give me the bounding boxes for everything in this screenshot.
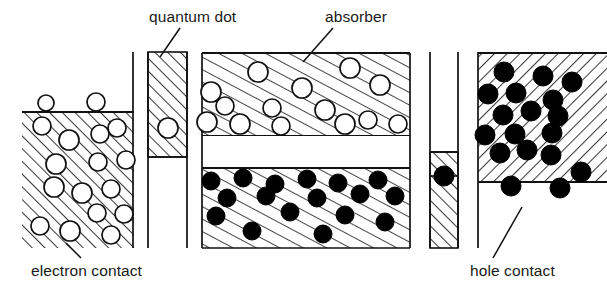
hole-holes-in-absorber-11 [207, 207, 225, 225]
electron-electrons-in-contact-2 [91, 125, 109, 143]
hole-holes-in-contact-11 [542, 123, 562, 143]
electron-electrons-in-contact-8 [72, 183, 92, 203]
hole-holes-in-contact-7 [521, 101, 541, 121]
hole-holes-in-absorber-10 [386, 187, 404, 205]
hole-holes-in-absorber-9 [351, 185, 369, 203]
electron-electrons-in-contact-4 [46, 154, 66, 174]
electron-electrons-in-contact-3 [108, 119, 126, 137]
absorber-bandgap [202, 136, 410, 168]
electron-electrons-in-contact-12 [31, 217, 49, 235]
electron-electrons-in-absorber-8 [197, 112, 217, 132]
electron-electrons-in-contact-13 [60, 221, 80, 241]
label-electron-contact: electron contact [31, 262, 142, 280]
hole-holes-in-absorber-4 [329, 174, 347, 192]
hole-holes-in-contact-6 [493, 105, 513, 125]
electron-electrons-free-above-contact-1 [87, 93, 105, 111]
hole-holes-in-absorber-14 [376, 213, 394, 231]
electron-electrons-in-contact-5 [89, 153, 107, 171]
hole-holes-in-contact-9 [475, 125, 495, 145]
hole-hole-in-quantum-dot-right-0 [434, 166, 454, 186]
hole-holes-in-absorber-13 [336, 206, 354, 224]
hole-contact-leader [493, 207, 522, 258]
electron-electrons-in-contact-1 [59, 130, 79, 150]
band-diagram-canvas [0, 0, 607, 293]
hole-holes-in-absorber-3 [298, 170, 316, 188]
hole-holes-in-contact-3 [478, 84, 498, 104]
electron-electrons-in-absorber-12 [359, 111, 377, 129]
hole-holes-in-absorber-1 [234, 169, 252, 187]
hole-holes-in-contact-12 [490, 143, 510, 163]
hole-holes-in-absorber-12 [281, 203, 299, 221]
hole-holes-in-contact-17 [550, 178, 570, 198]
electron-electrons-in-absorber-0 [248, 62, 268, 82]
hole-holes-in-absorber-6 [218, 189, 236, 207]
electron-electrons-in-absorber-9 [230, 114, 250, 134]
electron-electrons-in-absorber-11 [335, 114, 355, 134]
label-quantum-dot: quantum dot [149, 8, 236, 26]
electron-electrons-free-above-contact-0 [38, 95, 54, 111]
electron-electrons-in-contact-0 [33, 117, 51, 135]
hole-holes-in-absorber-8 [308, 189, 326, 207]
quantum-dot-left-body [148, 52, 187, 157]
hole-holes-in-contact-13 [517, 140, 537, 160]
electron-electrons-in-contact-11 [115, 205, 133, 223]
electron-electrons-in-contact-7 [44, 177, 64, 197]
electron-electron-in-quantum-dot-left-0 [158, 118, 178, 138]
label-hole-contact: hole contact [470, 262, 555, 280]
hole-holes-in-absorber-0 [202, 172, 220, 190]
hole-holes-in-absorber-7 [257, 187, 275, 205]
band-diagram-figure: quantum dot absorber electron contact ho… [0, 0, 607, 293]
hole-holes-in-contact-15 [571, 162, 591, 182]
hole-holes-in-contact-1 [533, 66, 553, 86]
electron-electrons-in-absorber-5 [216, 97, 234, 115]
hole-holes-in-absorber-5 [369, 171, 387, 189]
hole-holes-in-contact-14 [541, 145, 561, 165]
electron-electrons-in-absorber-7 [315, 100, 335, 120]
electron-electrons-in-absorber-1 [340, 58, 360, 78]
region-quantum-dot-left [148, 52, 187, 157]
electron-electrons-in-contact-9 [102, 180, 120, 198]
hole-holes-in-contact-2 [562, 72, 582, 92]
hole-holes-in-contact-16 [501, 176, 521, 196]
electron-electrons-in-absorber-4 [370, 75, 390, 95]
electron-electrons-in-absorber-13 [389, 115, 407, 133]
electron-electrons-in-absorber-10 [272, 117, 290, 135]
hole-holes-in-absorber-15 [243, 222, 261, 240]
electron-electrons-in-absorber-3 [292, 78, 312, 98]
electron-electrons-in-contact-6 [117, 151, 135, 169]
electron-electrons-in-absorber-2 [201, 82, 221, 102]
label-absorber: absorber [325, 8, 387, 26]
electron-electrons-in-contact-10 [88, 204, 106, 222]
hole-holes-in-absorber-16 [314, 225, 332, 243]
electron-electrons-in-contact-14 [102, 226, 120, 244]
electron-electrons-in-absorber-6 [263, 99, 281, 117]
hole-holes-in-contact-0 [494, 62, 514, 82]
hole-holes-in-contact-4 [506, 83, 526, 103]
